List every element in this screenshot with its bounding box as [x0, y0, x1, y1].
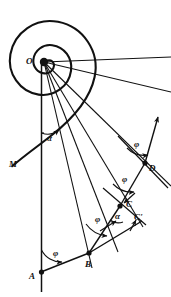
angle-label-phi-at-D: φ — [134, 140, 139, 149]
point-label-M: M — [9, 160, 17, 169]
point-marker-D — [142, 160, 147, 165]
logarithmic-spiral-curve — [10, 21, 96, 166]
point-marker-C — [117, 203, 122, 208]
angle-label-phi-at-B: φ — [95, 215, 100, 224]
point-marker-O — [40, 58, 48, 66]
arrow-tick-left-C — [100, 221, 116, 231]
point-label-C: C — [126, 200, 132, 209]
angle-label-alpha-top: α — [47, 134, 52, 143]
polygonal-chain-group — [41, 117, 158, 272]
angle-arc-phi-A — [42, 250, 63, 262]
angle-label-phi-at-A: φ — [53, 249, 58, 258]
chain-segment-D-top — [145, 117, 158, 163]
ray-intermediate-1 — [44, 62, 118, 252]
point-marker-B — [86, 250, 91, 255]
spiral-diagram-svg — [0, 0, 171, 297]
ray-through-B — [44, 62, 92, 268]
point-label-C-prime: C' — [134, 213, 143, 222]
point-label-D: D — [149, 164, 156, 173]
ray-to-right-edge-upper — [44, 57, 171, 62]
chain-segment-A-B — [41, 253, 89, 272]
point-label-B: B — [85, 260, 91, 269]
angle-label-phi-at-C: φ — [122, 175, 127, 184]
point-label-A: A — [29, 272, 35, 281]
spiral-curve-group — [10, 21, 96, 166]
point-label-O: O — [26, 57, 33, 66]
angle-label-alpha-at-C: α — [115, 212, 120, 221]
chain-segment-B-Cp — [89, 221, 142, 253]
spiral-figure: O M A B C C' D α φ φ α φ φ — [0, 0, 171, 297]
point-marker-A — [39, 269, 44, 274]
chain-segment-C-D — [120, 163, 145, 206]
